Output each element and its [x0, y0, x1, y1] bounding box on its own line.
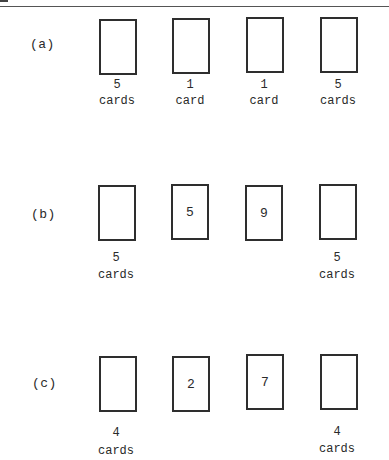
- card-pile: [319, 184, 357, 240]
- card-pile: [99, 356, 137, 412]
- count-label: 4: [307, 424, 367, 440]
- row-label: (c): [32, 376, 57, 391]
- count-label: 5: [307, 250, 367, 266]
- unit-label: cards: [87, 93, 147, 109]
- unit-label: cards: [307, 441, 367, 457]
- card-pile: [99, 19, 137, 75]
- unit-label: cards: [86, 267, 146, 283]
- card-face-up: 9: [245, 185, 283, 241]
- card-pile: [172, 18, 210, 74]
- unit-label: cards: [86, 443, 146, 459]
- card-pile: [98, 185, 136, 241]
- count-label: 1: [160, 77, 220, 93]
- unit-label: cards: [307, 267, 367, 283]
- count-label: 5: [86, 250, 146, 266]
- count-label: 5: [87, 77, 147, 93]
- row-label: (a): [30, 37, 55, 52]
- card-pile: [246, 17, 284, 73]
- top-rule: [0, 6, 389, 7]
- unit-label: card: [234, 93, 294, 109]
- unit-label: card: [160, 93, 220, 109]
- card-pile: [320, 17, 358, 73]
- count-label: 5: [308, 77, 368, 93]
- top-rule-fragment: [0, 0, 8, 2]
- count-label: 1: [234, 77, 294, 93]
- card-face-up: 2: [172, 356, 210, 412]
- card-face-up: 5: [171, 184, 209, 240]
- row-label: (b): [31, 207, 56, 222]
- card-face-up: 7: [246, 354, 284, 410]
- unit-label: cards: [308, 93, 368, 109]
- card-pile: [320, 354, 358, 410]
- count-label: 4: [86, 425, 146, 441]
